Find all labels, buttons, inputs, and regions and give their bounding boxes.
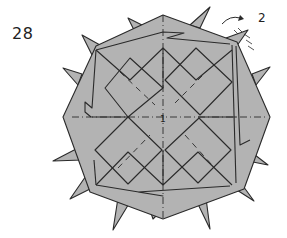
origami-model: 1 <box>0 0 287 238</box>
rotate-arrow-icon <box>222 17 240 24</box>
center-label: 1 <box>160 114 166 124</box>
